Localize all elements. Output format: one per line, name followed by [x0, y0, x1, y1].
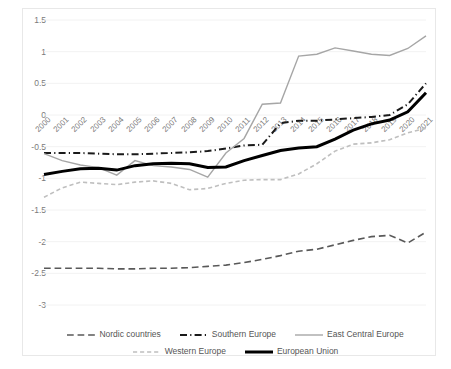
chart-legend: Nordic countriesSouthern EuropeEast Cent…	[44, 325, 426, 359]
legend-label: Southern Europe	[212, 327, 276, 342]
series-lines	[44, 20, 426, 305]
legend-item-nordic-countries[interactable]: Nordic countries	[66, 326, 160, 342]
legend-label: East Central Europe	[327, 327, 404, 342]
legend-swatch-icon	[244, 348, 274, 356]
legend-swatch-icon	[66, 331, 96, 339]
legend-item-southern-europe[interactable]: Southern Europe	[179, 326, 276, 342]
chart-container: 1.510.50-0.5-1-1.5-2-2.5-3 2000200120022…	[0, 0, 451, 369]
legend-item-western-europe[interactable]: Western Europe	[132, 343, 226, 359]
plot-area	[44, 20, 426, 305]
legend-item-european-union[interactable]: European Union	[244, 343, 338, 359]
legend-label: Western Europe	[165, 344, 226, 359]
y-axis-labels: 1.510.50-0.5-1-1.5-2-2.5-3	[22, 20, 46, 305]
legend-swatch-icon	[179, 331, 209, 339]
series-line-european-union	[44, 93, 426, 175]
legend-row: Nordic countriesSouthern EuropeEast Cent…	[44, 325, 426, 342]
legend-label: Nordic countries	[99, 327, 160, 342]
legend-label: European Union	[277, 344, 338, 359]
legend-row: Western EuropeEuropean Union	[44, 342, 426, 359]
series-line-nordic-countries	[44, 232, 426, 269]
legend-item-east-central-europe[interactable]: East Central Europe	[294, 326, 404, 342]
series-line-east-central-europe	[44, 36, 426, 177]
legend-swatch-icon	[132, 348, 162, 356]
legend-swatch-icon	[294, 331, 324, 339]
